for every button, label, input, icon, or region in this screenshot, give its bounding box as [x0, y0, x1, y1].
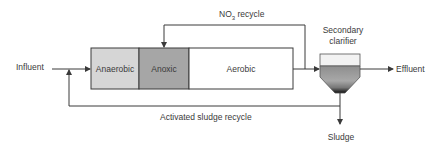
no3-recycle-suffix: recycle	[235, 9, 264, 19]
secondary-clarifier	[320, 54, 360, 93]
influent-label: Influent	[16, 63, 44, 72]
no3-recycle-label: NO3 recycle	[219, 10, 264, 21]
anaerobic-label: Anaerobic	[91, 48, 139, 89]
clarifier-label-line1: Secondary	[323, 26, 364, 35]
activated-sludge-recycle-label: Activated sludge recycle	[160, 113, 252, 122]
effluent-label: Effluent	[396, 65, 425, 74]
no3-recycle-prefix: NO	[219, 9, 232, 19]
anoxic-label: Anoxic	[139, 48, 189, 89]
clarifier-label-line2: clarifier	[329, 37, 356, 46]
sludge-label: Sludge	[328, 133, 354, 142]
aerobic-label: Aerobic	[189, 48, 293, 89]
